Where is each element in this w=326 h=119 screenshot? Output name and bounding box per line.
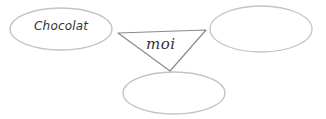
bubble-bottom[interactable] — [123, 72, 225, 114]
mind-map-canvas — [0, 0, 326, 119]
center-label: moi — [146, 35, 176, 53]
bubble-left-label: Chocolat — [34, 19, 88, 33]
bubble-right[interactable] — [210, 6, 312, 52]
